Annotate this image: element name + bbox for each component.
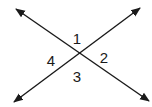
- angle-label-2: 2: [100, 50, 108, 65]
- angle-label-1: 1: [73, 31, 81, 46]
- line-b: [14, 8, 140, 102]
- angle-label-3: 3: [73, 69, 81, 84]
- angle-label-4: 4: [47, 53, 55, 68]
- intersecting-lines-diagram: [0, 0, 152, 107]
- line-a: [16, 9, 149, 101]
